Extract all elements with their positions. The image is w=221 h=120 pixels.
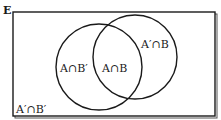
region-label-b-only: A′∩B: [140, 38, 169, 51]
venn-diagram: E A∩B′ A∩B A′∩B A′∩B′: [0, 0, 221, 120]
region-label-intersection: A∩B: [101, 62, 127, 75]
region-label-a-only: A∩B′: [59, 62, 88, 75]
region-label-neither: A′∩B′: [15, 103, 47, 116]
universal-set-label: E: [3, 4, 11, 17]
